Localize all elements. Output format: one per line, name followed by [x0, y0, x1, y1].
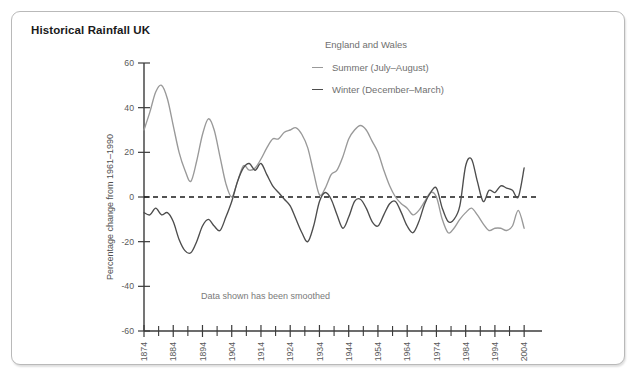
x-axis-tick-label: 1934 [315, 342, 325, 361]
x-axis-tick-label: 1884 [168, 342, 178, 361]
screenshot-root: Historical Rainfall UK England and Wales… [0, 0, 642, 385]
x-axis-tick-label: 1874 [139, 342, 149, 361]
x-axis-tick-label: 1894 [198, 342, 208, 361]
series-line-summer [144, 85, 524, 233]
x-axis-tick-label: 1914 [256, 342, 266, 361]
x-axis-tick-label: 2004 [519, 342, 529, 361]
axes-layer [138, 63, 542, 337]
y-axis-title: Percentage change from 1961–1990 [105, 134, 115, 280]
x-axis-tick-label: 1964 [402, 342, 412, 361]
y-axis-tick-label: -20 [121, 237, 134, 247]
x-axis-tick-label: 1994 [490, 342, 500, 361]
x-axis-tick-label: 1974 [432, 342, 442, 361]
chart-annotation: Data shown has been smoothed [201, 291, 330, 301]
x-axis-tick-label: 1984 [461, 342, 471, 361]
y-axis-tick-label: 20 [124, 147, 134, 157]
chart-plot-area: 6040200-20-40-60187418841894190419141924… [12, 12, 624, 364]
series-layer [144, 85, 524, 253]
y-axis-tick-label: 40 [124, 103, 134, 113]
y-axis-tick-label: 60 [124, 58, 134, 68]
x-axis-tick-label: 1924 [285, 342, 295, 361]
x-axis-tick-label: 1944 [344, 342, 354, 361]
x-axis-tick-label: 1954 [373, 342, 383, 361]
chart-panel: Historical Rainfall UK England and Wales… [11, 11, 625, 365]
y-axis-tick-label: -60 [121, 326, 134, 336]
y-axis-tick-label: -40 [121, 281, 134, 291]
y-axis-tick-label: 0 [129, 192, 134, 202]
x-axis-tick-label: 1904 [227, 342, 237, 361]
